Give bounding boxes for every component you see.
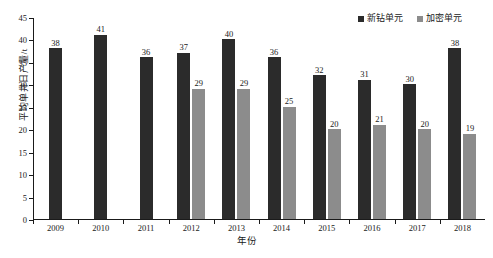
bar-infill: 29 (237, 89, 250, 219)
y-tick-label: 15 (7, 148, 27, 157)
bar-infill: 20 (328, 129, 341, 219)
y-tick-mark (29, 63, 33, 64)
x-axis-title: 年份 (0, 233, 493, 247)
bar-value-label: 38 (451, 39, 460, 48)
bar-value-label: 36 (142, 48, 151, 57)
bar-value-label: 20 (330, 120, 339, 129)
bar-new-drill: 36 (140, 57, 153, 219)
x-tick-mark (440, 220, 441, 224)
x-tick-label: 2018 (454, 224, 471, 233)
y-tick-mark (29, 85, 33, 86)
bar-infill: 29 (192, 89, 205, 219)
y-tick-mark (29, 153, 33, 154)
x-tick-label: 2016 (364, 224, 381, 233)
bar-value-label: 29 (194, 79, 203, 88)
bar-infill: 19 (463, 134, 476, 219)
bar-value-label: 36 (270, 48, 279, 57)
x-tick-mark (78, 220, 79, 224)
bar-value-label: 30 (405, 75, 414, 84)
x-tick-label: 2010 (92, 224, 109, 233)
x-tick-mark (33, 220, 34, 224)
chart-figure: 新钻单元 加密单元 平均单井日产量/t 051015202530354045 2… (0, 0, 493, 258)
bar-value-label: 21 (375, 115, 384, 124)
x-tick-mark (123, 220, 124, 224)
y-axis-line (33, 18, 34, 220)
x-tick-mark (349, 220, 350, 224)
x-tick-mark (169, 220, 170, 224)
y-tick-label: 0 (7, 216, 27, 225)
bar-value-label: 38 (51, 39, 60, 48)
x-tick-mark (304, 220, 305, 224)
bar-value-label: 41 (97, 25, 106, 34)
bar-new-drill: 36 (268, 57, 281, 219)
bar-infill: 20 (418, 129, 431, 219)
bar-value-label: 20 (420, 120, 429, 129)
bar-new-drill: 41 (94, 35, 107, 219)
y-tick-label: 30 (7, 81, 27, 90)
y-tick-label: 25 (7, 104, 27, 113)
bar-new-drill: 40 (222, 39, 235, 219)
y-tick-label: 35 (7, 59, 27, 68)
plot-area: 051015202530354045 200920102011201220132… (33, 18, 485, 220)
bar-infill: 25 (283, 107, 296, 219)
bar-new-drill: 38 (49, 48, 62, 219)
y-tick-mark (29, 198, 33, 199)
x-tick-mark (395, 220, 396, 224)
x-tick-mark (259, 220, 260, 224)
x-tick-mark (214, 220, 215, 224)
clipped-caption (0, 250, 493, 258)
y-tick-mark (29, 175, 33, 176)
bar-value-label: 31 (360, 70, 369, 79)
y-tick-label: 20 (7, 126, 27, 135)
x-tick-label: 2009 (47, 224, 64, 233)
y-tick-mark (29, 40, 33, 41)
bar-new-drill: 37 (177, 53, 190, 219)
bar-new-drill: 31 (358, 80, 371, 219)
x-tick-label: 2011 (138, 224, 155, 233)
bar-value-label: 37 (179, 43, 188, 52)
y-tick-mark (29, 130, 33, 131)
y-tick-label: 5 (7, 193, 27, 202)
y-tick-label: 45 (7, 14, 27, 23)
bar-new-drill: 38 (448, 48, 461, 219)
x-tick-label: 2012 (183, 224, 200, 233)
bar-value-label: 29 (240, 79, 249, 88)
y-tick-label: 40 (7, 36, 27, 45)
y-tick-label: 10 (7, 171, 27, 180)
bar-value-label: 19 (466, 124, 475, 133)
y-tick-mark (29, 18, 33, 19)
bar-new-drill: 30 (403, 84, 416, 219)
x-tick-label: 2013 (228, 224, 245, 233)
x-tick-label: 2015 (318, 224, 335, 233)
x-tick-label: 2017 (409, 224, 426, 233)
bar-value-label: 25 (285, 97, 294, 106)
x-tick-label: 2014 (273, 224, 290, 233)
y-tick-mark (29, 108, 33, 109)
bar-value-label: 40 (225, 30, 234, 39)
bar-infill: 21 (373, 125, 386, 219)
bar-new-drill: 32 (313, 75, 326, 219)
bar-value-label: 32 (315, 66, 324, 75)
